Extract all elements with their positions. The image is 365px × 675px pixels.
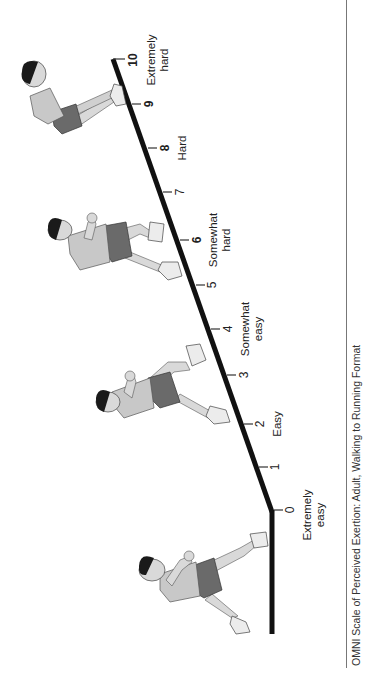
tick-label-4: 4 xyxy=(221,325,235,332)
descriptor-somewhat-easy: Somewhat easy xyxy=(239,301,264,356)
tick-label-6: 6 xyxy=(190,236,204,243)
running-figure xyxy=(48,213,182,280)
walking-figure xyxy=(139,532,268,634)
tick-label-0: 0 xyxy=(283,506,297,513)
descriptor-line1: Somewhat xyxy=(239,301,251,356)
descriptor-line2: easy xyxy=(252,317,264,342)
tick-label-10: 10 xyxy=(126,53,140,67)
tick-label-7: 7 xyxy=(173,188,187,195)
descriptor-labels: Extremely easy Easy Somewhat easy Somewh… xyxy=(145,34,326,540)
descriptor-line2: easy xyxy=(314,503,326,528)
tick-label-2: 2 xyxy=(253,420,267,427)
descriptor-extremely-easy: Extremely easy xyxy=(301,489,326,540)
figure-caption: OMNI Scale of Perceived Exertion: Adult,… xyxy=(350,345,362,666)
tick-label-9: 9 xyxy=(142,100,156,107)
tick-label-1: 1 xyxy=(268,463,282,470)
tick-label-3: 3 xyxy=(237,371,251,378)
descriptor-line1: Somewhat xyxy=(207,212,219,267)
descriptor-line1: Easy xyxy=(271,411,283,437)
descriptor-extremely-hard: Extremely hard xyxy=(145,34,170,85)
descriptor-line1: Hard xyxy=(176,136,188,161)
descriptor-somewhat-hard: Somewhat hard xyxy=(207,212,232,267)
jogging-figure xyxy=(96,344,230,424)
descriptor-hard: Hard xyxy=(176,136,188,161)
tick-labels: 0 1 2 3 4 5 6 7 8 9 10 xyxy=(126,53,297,513)
descriptor-line2: hard xyxy=(220,228,232,251)
exhausted-runner-figure xyxy=(22,61,126,134)
descriptor-line1: Extremely xyxy=(145,34,157,85)
descriptor-line1: Extremely xyxy=(301,489,313,540)
omni-scale-figure: 0 1 2 3 4 5 6 7 8 9 10 Extremely easy Ea… xyxy=(0,0,365,675)
descriptor-line2: hard xyxy=(158,48,170,71)
tick-label-8: 8 xyxy=(158,144,172,151)
descriptor-easy: Easy xyxy=(271,411,283,437)
tick-label-5: 5 xyxy=(205,281,219,288)
